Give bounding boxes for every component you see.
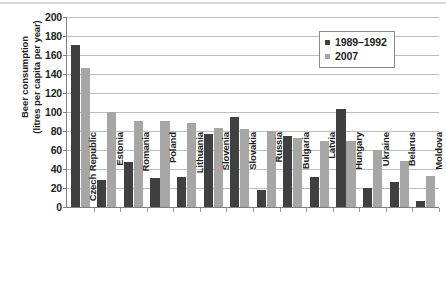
y-axis-tick-100: 100 — [45, 106, 62, 118]
y-axis-tick-140: 140 — [45, 68, 62, 80]
y-axis-tick-40: 40 — [51, 163, 62, 175]
y-axis-tick-160: 160 — [45, 49, 62, 61]
legend-item-1989-1992: 1989–1992 — [325, 35, 387, 49]
x-axis-category-label: Estonia — [112, 132, 126, 210]
y-axis-tick-120: 120 — [45, 87, 62, 99]
x-axis-category-label: Belarus — [404, 132, 418, 210]
bar — [71, 45, 80, 207]
x-axis-category-label: Bulgaria — [298, 132, 312, 210]
x-axis-category-label: Slovakia — [245, 132, 259, 210]
legend-label-2007: 2007 — [335, 50, 358, 62]
x-axis-category-label: Poland — [165, 132, 179, 210]
y-axis-tick-60: 60 — [51, 144, 62, 156]
legend-swatch-icon-1989-1992 — [325, 40, 330, 45]
y-axis-tick-0: 0 — [56, 201, 62, 213]
x-axis-category-label: Latvia — [324, 132, 338, 210]
legend: 1989–1992 2007 — [319, 31, 395, 68]
x-axis-tick-labels: Czech RepublicEstoniaRomaniaPolandLithua… — [66, 210, 438, 290]
x-axis-category-label: Slovenia — [218, 132, 232, 210]
legend-swatch-icon-2007 — [325, 54, 330, 59]
x-axis-category-label: Czech Republic — [85, 132, 99, 210]
y-axis-tick-labels: 200180160140120100806040200 — [30, 10, 62, 212]
x-axis-category-label: Hungary — [351, 132, 365, 210]
y-axis-tick-80: 80 — [51, 125, 62, 137]
x-axis-category-label: Lithuania — [192, 132, 206, 210]
legend-item-2007: 2007 — [325, 49, 387, 63]
y-axis-tick-180: 180 — [45, 30, 62, 42]
y-tickmark-0 — [63, 207, 67, 208]
x-axis-category-label: Moldova — [431, 132, 445, 210]
page-top-edge — [0, 2, 446, 4]
y-axis-tick-200: 200 — [45, 11, 62, 23]
x-axis-category-label: Romania — [138, 132, 152, 210]
beer-consumption-bar-chart: Beer consumption (litres per capita per … — [0, 0, 446, 292]
legend-label-1989-1992: 1989–1992 — [335, 36, 387, 48]
x-axis-category-label: Russia — [271, 132, 285, 210]
y-axis-tick-20: 20 — [51, 182, 62, 194]
x-axis-category-label: Ukraine — [378, 132, 392, 210]
